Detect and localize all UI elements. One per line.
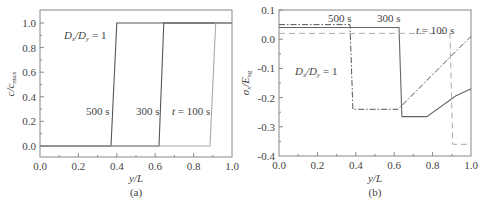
label-100s-a: t = 100 s (172, 105, 210, 117)
xtick-label: 0.6 (387, 159, 401, 171)
xtick-label: 1.0 (225, 160, 239, 172)
plot-b-series (279, 25, 471, 145)
plot-b-yticks (279, 10, 283, 141)
ytick-label: 0.1 (261, 4, 275, 16)
xtick-label: 0.4 (349, 159, 363, 171)
caption-b: (b) (369, 186, 382, 199)
xlabel-b: y/L (367, 172, 382, 184)
xtick-label: 0.4 (110, 160, 124, 172)
ytick-label: 0.6 (22, 66, 36, 78)
ylabel-a: c/cmax (4, 71, 18, 96)
series-a-300s (40, 23, 232, 146)
label-100s-b: t = 100 s (416, 24, 454, 36)
ytick-label: 1.0 (22, 17, 36, 29)
figure: 0.0 0.2 0.4 0.6 0.8 1.0 0.0 0.2 0.4 0.6 … (0, 0, 483, 205)
ytick-label: -0.3 (258, 121, 276, 133)
xlabel-a: y/L (128, 172, 143, 184)
ytick-label: -0.1 (258, 62, 275, 74)
ratio-annotation-b: Dx/Dy = 1 (294, 65, 337, 79)
plot-a-yticks (40, 23, 44, 146)
label-300s-a: 300 s (136, 105, 160, 117)
panel-a: 0.0 0.2 0.4 0.6 0.8 1.0 0.0 0.2 0.4 0.6 … (4, 10, 239, 199)
plot-b-xticks (298, 152, 452, 156)
xtick-label: 0.0 (33, 160, 47, 172)
ylabel-b: σx/Esg (239, 70, 253, 95)
xtick-label: 0.2 (72, 160, 86, 172)
xtick-label: 0.8 (187, 160, 201, 172)
ratio-annotation-a: Dx/Dy = 1 (63, 29, 106, 43)
label-300s-b: 300 s (377, 12, 401, 24)
ytick-label: 0.0 (261, 33, 275, 45)
plot-a-ytick-labels: 0.0 0.2 0.4 0.6 0.8 1.0 (22, 17, 36, 152)
plot-b-xtick-labels: 0.0 0.2 0.4 0.6 0.8 1.0 (272, 159, 478, 171)
series-b-100s (279, 33, 471, 144)
ytick-label: -0.2 (258, 92, 275, 104)
xtick-label: 1.0 (464, 159, 478, 171)
plot-a-series (40, 23, 232, 146)
xtick-label: 0.0 (272, 159, 286, 171)
plot-a-xticks (59, 153, 213, 157)
ytick-label: 0.8 (22, 42, 36, 54)
series-a-500s (40, 23, 232, 146)
series-a-100s (40, 23, 232, 146)
ytick-label: 0.4 (22, 91, 36, 103)
label-500s-a: 500 s (86, 105, 110, 117)
ytick-label: 0.0 (22, 140, 36, 152)
xtick-label: 0.2 (311, 159, 325, 171)
xtick-label: 0.8 (426, 159, 440, 171)
panel-b: 0.1 0.0 -0.1 -0.2 -0.3 -0.4 0.0 0.2 0.4 … (239, 4, 478, 199)
plot-b-ytick-labels: 0.1 0.0 -0.1 -0.2 -0.3 -0.4 (258, 4, 276, 162)
plot-a-xtick-labels: 0.0 0.2 0.4 0.6 0.8 1.0 (33, 160, 239, 172)
label-500s-b: 500 s (328, 12, 352, 24)
caption-a: (a) (130, 186, 143, 199)
ytick-label: 0.2 (22, 115, 36, 127)
xtick-label: 0.6 (148, 160, 162, 172)
